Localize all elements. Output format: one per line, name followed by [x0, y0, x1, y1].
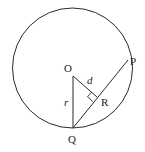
label-Q: Q — [68, 133, 76, 145]
label-d: d — [87, 74, 93, 86]
label-P: P — [130, 55, 136, 67]
label-O: O — [64, 62, 72, 74]
chord-QP — [73, 60, 128, 128]
label-R: R — [101, 96, 109, 108]
right-angle-marker — [88, 92, 93, 101]
circle-diagram: O P R Q r d — [0, 0, 145, 152]
segment-OR — [73, 76, 97, 97]
label-r: r — [64, 96, 69, 108]
